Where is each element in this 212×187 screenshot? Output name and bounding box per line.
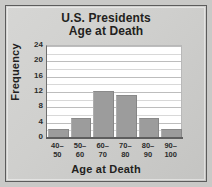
bar [48, 129, 69, 137]
x-axis-tick-label-line: 50 [46, 150, 69, 159]
x-axis-tick-label: 50–60 [69, 141, 92, 159]
x-axis-tick-label-line: 90– [159, 141, 182, 150]
plot-area [46, 45, 182, 137]
chart-title-line-2: Age at Death [0, 25, 212, 38]
x-axis-tick-label: 60–70 [91, 141, 114, 159]
x-axis-tick-label-line: 50– [69, 141, 92, 150]
bar [71, 118, 92, 137]
x-axis-tick-label: 80–90 [137, 141, 160, 159]
y-axis-tick-label: 20 [18, 56, 43, 64]
x-axis-label: Age at Death [0, 163, 212, 175]
x-axis-tick-label: 40–50 [46, 141, 69, 159]
x-axis-tick-label-line: 80 [114, 150, 137, 159]
y-axis-tick-labels: 04812162024 [18, 45, 43, 137]
x-axis-tick-label-line: 70 [91, 150, 114, 159]
y-axis-tick-label: 4 [18, 118, 43, 126]
chart-figure: U.S. Presidents Age at Death Frequency 0… [0, 0, 212, 187]
bar [139, 118, 160, 137]
x-axis-tick-label-line: 80– [137, 141, 160, 150]
x-axis-tick-label-line: 70– [114, 141, 137, 150]
bar [93, 91, 114, 137]
chart-title: U.S. Presidents Age at Death [0, 12, 212, 38]
x-axis-tick-label-line: 40– [46, 141, 69, 150]
x-axis-line [46, 137, 183, 139]
x-axis-tick-labels: 40–5050–6060–7070–8080–9090–100 [46, 141, 182, 163]
x-axis-tick-label-line: 100 [159, 150, 182, 159]
y-axis-tick-label: 24 [18, 41, 43, 49]
x-axis-tick-label: 90–100 [159, 141, 182, 159]
y-axis-tick-label: 0 [18, 133, 43, 141]
y-axis-tick-label: 12 [18, 87, 43, 95]
x-axis-tick-label-line: 60 [69, 150, 92, 159]
y-axis-tick-label: 16 [18, 72, 43, 80]
x-axis-tick-label-line: 90 [137, 150, 160, 159]
y-axis-tick-label: 8 [18, 102, 43, 110]
bar-series [47, 46, 181, 137]
x-axis-tick-label: 70–80 [114, 141, 137, 159]
bar [161, 129, 182, 137]
x-axis-tick-label-line: 60– [91, 141, 114, 150]
bar [116, 95, 137, 137]
